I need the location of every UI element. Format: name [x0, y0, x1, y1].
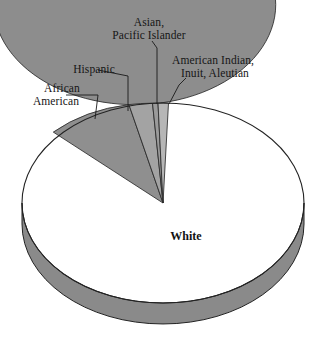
pie-3d-side-wall — [22, 203, 304, 324]
label-african-american-line1: African — [44, 82, 80, 94]
pie-chart-svg: Asian, Pacific Islander American Indian,… — [0, 0, 326, 347]
label-asian-pacific-islander-line1: Asian, — [134, 16, 164, 29]
label-american-indian-line2: Inuit, Aleutian — [181, 67, 249, 80]
label-asian-pacific-islander-line2: Pacific Islander — [112, 29, 186, 41]
pie-top-face — [0, 0, 304, 303]
side-wall-path — [22, 203, 304, 324]
label-african-american-line2: American — [33, 95, 79, 107]
label-white: White — [170, 229, 202, 243]
pie-chart-figure: Asian, Pacific Islander American Indian,… — [0, 0, 326, 347]
label-hispanic: Hispanic — [73, 63, 115, 76]
label-american-indian-line1: American Indian, — [172, 54, 254, 67]
